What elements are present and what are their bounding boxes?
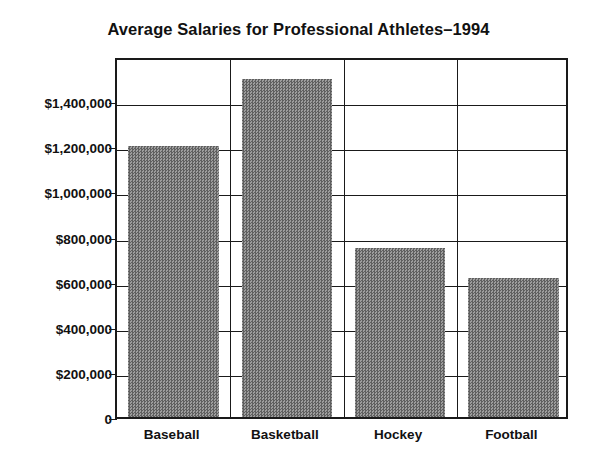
- x-axis-label-hockey: Hockey: [342, 427, 455, 442]
- y-axis-tick-label: $800,000: [0, 231, 112, 246]
- y-axis-tick-label: 0: [0, 412, 112, 427]
- y-axis-tick-label: $1,200,000: [0, 141, 112, 156]
- y-axis-tick-label: $200,000: [0, 366, 112, 381]
- y-axis-tick-label: $400,000: [0, 321, 112, 336]
- category-divider: [457, 60, 458, 417]
- bar-basketball: [242, 79, 333, 417]
- bar-hockey: [355, 248, 446, 417]
- chart-figure: Average Salaries for Professional Athlet…: [0, 0, 597, 462]
- x-axis-label-basketball: Basketball: [228, 427, 341, 442]
- category-divider: [344, 60, 345, 417]
- y-axis-tick-label: $1,400,000: [0, 96, 112, 111]
- y-axis-tick-label: $600,000: [0, 276, 112, 291]
- bar-football: [468, 278, 559, 417]
- y-gridline: [117, 105, 566, 106]
- x-axis-label-baseball: Baseball: [115, 427, 228, 442]
- bar-baseball: [128, 146, 219, 417]
- x-axis-label-football: Football: [455, 427, 568, 442]
- category-divider: [230, 60, 231, 417]
- y-axis-tick-label: $1,000,000: [0, 186, 112, 201]
- y-axis-tick-mark: [109, 419, 117, 420]
- plot-area: [115, 58, 568, 419]
- y-axis-labels: 0$200,000$400,000$600,000$800,000$1,000,…: [0, 0, 112, 462]
